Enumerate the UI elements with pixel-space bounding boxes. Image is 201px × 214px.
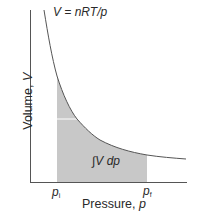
x-axis-label-text: Pressure, <box>82 197 139 211</box>
x-axis-label-var: p <box>139 197 146 211</box>
integral-differential: dp <box>103 154 120 168</box>
p-initial-sub: i <box>59 192 61 199</box>
p-initial-label: pi <box>52 186 60 199</box>
y-axis-label-var: V <box>21 73 35 81</box>
equation-label: V = nRT/p <box>53 6 107 18</box>
y-axis-label: Volume, V <box>22 66 35 136</box>
p-final-label: pf <box>143 185 152 198</box>
p-initial-base: p <box>52 185 59 199</box>
p-final-sub: f <box>150 191 152 198</box>
integral-label: ∫V dp <box>92 155 120 167</box>
p-final-base: p <box>143 184 150 198</box>
y-axis-label-text: Volume, <box>21 81 35 130</box>
x-axis-label: Pressure, p <box>82 198 146 211</box>
